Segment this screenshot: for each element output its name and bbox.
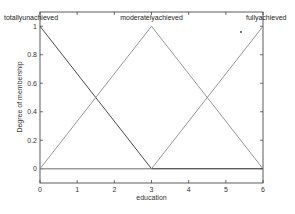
mf-line-totallyunachieved — [40, 26, 263, 169]
x-tick-label: 6 — [261, 186, 265, 193]
x-tick-labels: 0123456 — [38, 186, 265, 193]
y-tick-label: 1 — [33, 23, 37, 30]
x-tick-label: 0 — [38, 186, 42, 193]
membership-lines — [40, 26, 263, 169]
stray-dot-marker — [240, 31, 242, 33]
y-tick-label: 0 — [33, 165, 37, 172]
x-tick-label: 1 — [75, 186, 79, 193]
x-ticks — [40, 12, 263, 183]
y-tick-label: 0.8 — [27, 51, 37, 58]
x-tick-label: 4 — [187, 186, 191, 193]
y-tick-label: 0.6 — [27, 80, 37, 87]
y-tick-labels: 00.20.40.60.81 — [27, 23, 37, 173]
x-tick-label: 3 — [150, 186, 154, 193]
y-axis-label: Degree of membership — [16, 61, 24, 132]
y-tick-label: 0.2 — [27, 137, 37, 144]
mf-label-totallyunachieved: totallyunachieved — [4, 14, 58, 22]
x-tick-label: 5 — [224, 186, 228, 193]
mf-line-fullyachieved — [40, 26, 263, 169]
mf-line-moderatelyachieved — [40, 26, 263, 169]
mf-label-moderatelyachieved: moderatelyachieved — [120, 14, 183, 22]
mf-label-fullyachieved: fullyachieved — [246, 14, 287, 22]
y-tick-label: 0.4 — [27, 108, 37, 115]
x-tick-label: 2 — [112, 186, 116, 193]
x-axis-label: education — [136, 194, 166, 201]
membership-function-plot: 0123456 00.20.40.60.81 totallyunachieved… — [0, 0, 295, 214]
y-ticks — [40, 26, 263, 169]
axes-box — [40, 12, 263, 183]
